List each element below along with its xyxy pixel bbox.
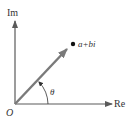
imaginary-axis-label: Im [7, 7, 18, 18]
complex-plane-diagram: Im Re O a+bi θ [0, 0, 134, 121]
angle-arc [39, 82, 48, 104]
point-dot [71, 42, 75, 46]
vector-arrow [15, 49, 67, 104]
origin-label: O [6, 107, 13, 118]
point-label: a+bi [78, 39, 96, 49]
angle-label: θ [50, 87, 55, 97]
real-axis-label: Re [114, 98, 126, 109]
